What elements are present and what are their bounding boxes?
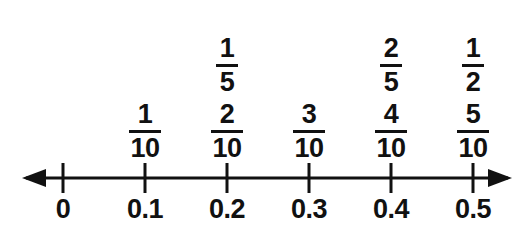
number-line-axis: [0, 0, 532, 234]
number-line-figure: 0 1 10 0.1 1 5 2 10 0.2: [0, 0, 532, 234]
arrow-left-icon: [22, 169, 46, 187]
arrow-right-icon: [488, 169, 512, 187]
